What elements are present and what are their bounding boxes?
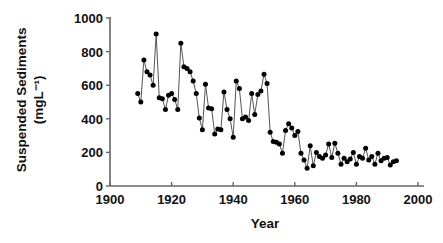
data-point-1933 [209, 106, 214, 111]
suspended-sediments-chart: Suspended Sediments (mgL⁻¹) Year 0200400… [0, 0, 443, 243]
data-point-1959 [289, 126, 294, 131]
data-point-1982 [360, 156, 365, 161]
data-point-1945 [246, 118, 251, 123]
data-point-1958 [286, 121, 291, 126]
data-point-1927 [191, 79, 196, 84]
data-point-1918 [163, 107, 168, 112]
data-point-1931 [203, 82, 208, 87]
data-point-1938 [225, 107, 230, 112]
data-point-1983 [363, 146, 368, 151]
data-point-1952 [268, 130, 273, 135]
data-point-1960 [292, 133, 297, 138]
data-point-1929 [197, 115, 202, 120]
data-point-1985 [369, 154, 374, 159]
data-point-1937 [221, 89, 226, 94]
data-point-1963 [302, 157, 307, 162]
data-point-1942 [237, 86, 242, 91]
data-point-1939 [228, 116, 233, 121]
data-point-1911 [141, 58, 146, 63]
data-point-1978 [348, 157, 353, 162]
data-point-1961 [295, 129, 300, 134]
data-point-1928 [194, 91, 199, 96]
data-point-1974 [335, 151, 340, 156]
data-point-1962 [298, 151, 303, 156]
data-point-1993 [394, 158, 399, 163]
data-point-1947 [252, 112, 257, 117]
data-point-1973 [332, 141, 337, 146]
data-point-1990 [385, 155, 390, 160]
plot-area [0, 0, 443, 243]
data-point-1964 [305, 166, 310, 171]
data-point-1956 [280, 151, 285, 156]
data-point-1967 [314, 150, 319, 155]
data-point-1950 [262, 72, 267, 77]
data-point-1936 [218, 127, 223, 132]
data-point-1926 [188, 69, 193, 74]
data-point-1966 [311, 163, 316, 168]
data-point-1920 [169, 91, 174, 96]
data-point-1970 [323, 152, 328, 157]
data-point-1922 [175, 107, 180, 112]
data-series-group [135, 31, 399, 170]
data-point-1951 [265, 81, 270, 86]
data-point-1949 [258, 89, 263, 94]
data-point-1913 [148, 73, 153, 78]
data-point-1923 [178, 41, 183, 46]
data-point-1934 [212, 131, 217, 136]
data-point-1917 [160, 96, 165, 101]
data-point-1975 [339, 162, 344, 167]
data-point-1930 [200, 127, 205, 132]
data-point-1941 [234, 79, 239, 84]
data-point-1986 [372, 162, 377, 167]
data-point-1972 [329, 155, 334, 160]
data-point-1915 [154, 31, 159, 36]
data-point-1946 [249, 91, 254, 96]
data-point-1957 [283, 128, 288, 133]
data-point-1979 [351, 150, 356, 155]
data-point-1910 [138, 100, 143, 105]
data-point-1921 [172, 97, 177, 102]
data-point-1980 [354, 162, 359, 167]
data-point-1965 [308, 143, 313, 148]
data-point-1971 [326, 142, 331, 147]
data-point-1955 [277, 142, 282, 147]
data-point-1914 [151, 83, 156, 88]
data-point-1940 [231, 135, 236, 140]
data-point-1987 [375, 151, 380, 156]
data-point-1909 [135, 91, 140, 96]
